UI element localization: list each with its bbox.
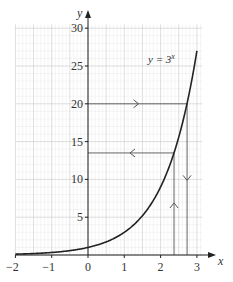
y-tick-label: 15 bbox=[71, 135, 83, 149]
y-axis-label: y bbox=[76, 6, 83, 20]
curve-label: y = 3x bbox=[147, 52, 175, 65]
y-tick-label: 30 bbox=[71, 21, 83, 35]
curve-label-sup: x bbox=[170, 52, 175, 61]
y-axis-arrow-icon bbox=[85, 10, 91, 18]
y-tick-label: 10 bbox=[71, 172, 83, 186]
y-tick-label: 25 bbox=[71, 59, 83, 73]
x-tick-label: 1 bbox=[121, 260, 127, 274]
x-axis-label: x bbox=[217, 254, 224, 268]
x-tick-label: 0 bbox=[85, 260, 91, 274]
curve-label-base: y = 3 bbox=[147, 53, 172, 65]
x-tick-label: 2 bbox=[158, 260, 164, 274]
y-tick-label: 20 bbox=[71, 97, 83, 111]
chart: −2−1012351015202530 y = 3x x y bbox=[0, 0, 233, 282]
x-tick-label: 3 bbox=[194, 260, 200, 274]
x-tick-label: −2 bbox=[6, 260, 19, 274]
x-tick-label: −1 bbox=[42, 260, 55, 274]
x-axis-arrow-icon bbox=[208, 252, 216, 258]
y-tick-label: 5 bbox=[77, 210, 83, 224]
annotation-lines bbox=[88, 100, 191, 255]
